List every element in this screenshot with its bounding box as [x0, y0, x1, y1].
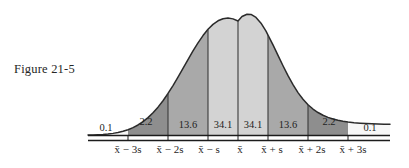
x-tick-label-plus-1s: x̄ + s — [261, 143, 282, 155]
x-tick-label-minus-2s: x̄ − 2s — [157, 143, 184, 155]
region-mean-to-plus1s — [238, 14, 268, 135]
x-tick-label-mean: x̄ — [237, 143, 243, 155]
figure-container: Figure 21-5 — [0, 0, 409, 168]
percent-label-mean-to-plus1s: 34.1 — [244, 119, 262, 130]
percent-label-below-3s: 0.1 — [99, 122, 112, 133]
normal-distribution-chart: 0.1 2.2 13.6 34.1 34.1 13.6 2.2 0.1 x̄ −… — [0, 0, 409, 168]
percent-label-minus3s-to-minus2s: 2.2 — [139, 116, 152, 127]
curve-shaded-regions — [88, 14, 390, 135]
x-axis — [88, 136, 390, 141]
x-tick-label-minus-1s: x̄ − s — [198, 143, 219, 155]
x-tick-label-plus-2s: x̄ + 2s — [299, 143, 326, 155]
x-tick-label-minus-3s: x̄ − 3s — [115, 143, 142, 155]
percent-label-plus2s-to-plus3s: 2.2 — [322, 116, 335, 127]
axis-tick-marks — [128, 136, 348, 141]
percent-label-minus1s-to-mean: 34.1 — [214, 119, 232, 130]
percent-label-plus1s-to-plus2s: 13.6 — [279, 119, 297, 130]
region-minus3s-to-minus2s — [128, 93, 168, 135]
percent-label-above-plus3s: 0.1 — [363, 122, 376, 133]
percent-label-minus2s-to-minus1s: 13.6 — [179, 119, 197, 130]
x-tick-label-plus-3s: x̄ + 3s — [340, 143, 367, 155]
x-axis-tick-labels: x̄ − 3s x̄ − 2s x̄ − s x̄ x̄ + s x̄ + 2s… — [115, 143, 367, 155]
